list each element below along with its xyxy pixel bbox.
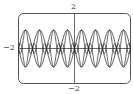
plot-area bbox=[0, 0, 133, 94]
